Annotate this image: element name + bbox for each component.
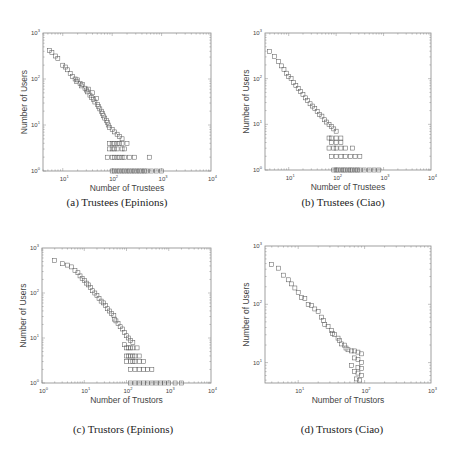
x-tick-label: 102: [333, 173, 343, 181]
y-tick-label: 103: [253, 28, 263, 36]
x-tick-label: 101: [286, 173, 296, 181]
plot-frame: [265, 33, 431, 170]
subplot-a: 101102103104100101102103Number of Truste…: [19, 28, 218, 193]
x-tick-label: 101: [295, 386, 305, 394]
caption-d: (d) Trustors (Ciao): [301, 423, 384, 435]
x-tick-label: 102: [362, 386, 372, 394]
y-axis-label: Number of Users: [241, 282, 251, 346]
subplot-b: 101102103104100101102103Number of Truste…: [241, 28, 438, 192]
subplot-c: 100101102103104100101102103Number of Tru…: [18, 243, 218, 405]
y-tick-label: 102: [253, 299, 263, 307]
y-tick-label: 103: [30, 243, 40, 251]
x-tick-label: 101: [60, 174, 70, 182]
plot-frame: [43, 33, 211, 171]
y-tick-label: 103: [31, 28, 41, 36]
x-axis-label: Number of Trustees: [90, 183, 165, 193]
caption-a: (a) Trustees (Epinions): [67, 196, 168, 208]
plot-frame: [42, 248, 211, 383]
y-tick-label: 100: [253, 165, 263, 173]
y-tick-label: 101: [253, 119, 263, 127]
x-tick-label: 104: [208, 174, 218, 182]
y-tick-label: 101: [253, 358, 263, 366]
y-tick-label: 100: [30, 378, 40, 386]
x-tick-label: 103: [159, 174, 169, 182]
y-axis-label: Number of Users: [19, 70, 29, 134]
y-tick-label: 101: [30, 333, 40, 341]
subplot-d: 101102103101102103Number of TrustorsNumb…: [241, 241, 438, 405]
x-axis-label: Number of Trustors: [90, 395, 163, 405]
x-axis-label: Number of Trustees: [311, 182, 386, 192]
plot-frame: [265, 246, 431, 383]
y-tick-label: 102: [253, 74, 263, 82]
y-tick-label: 101: [31, 120, 41, 128]
y-axis-label: Number of Users: [18, 283, 28, 347]
y-tick-label: 102: [30, 288, 40, 296]
x-tick-label: 102: [109, 174, 119, 182]
x-tick-label: 103: [428, 386, 438, 394]
caption-b: (b) Trustees (Ciao): [301, 196, 384, 208]
x-tick-label: 100: [39, 386, 49, 394]
y-tick-label: 100: [31, 166, 41, 174]
x-tick-label: 101: [81, 386, 91, 394]
x-tick-label: 104: [428, 173, 438, 181]
x-tick-label: 104: [208, 386, 218, 394]
x-axis-label: Number of Trustors: [312, 395, 385, 405]
x-tick-label: 103: [381, 173, 391, 181]
plots-svg: 101102103104100101102103Number of Truste…: [0, 0, 458, 455]
y-tick-label: 102: [31, 74, 41, 82]
y-axis-label: Number of Users: [241, 69, 251, 133]
caption-c: (c) Trustors (Epinions): [73, 423, 173, 435]
x-tick-label: 103: [166, 386, 176, 394]
y-tick-label: 103: [253, 241, 263, 249]
x-tick-label: 102: [124, 386, 134, 394]
